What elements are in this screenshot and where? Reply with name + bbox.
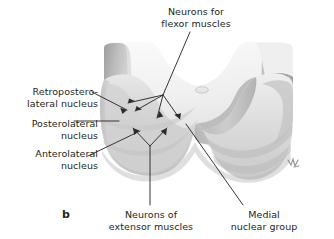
panel-letter: b bbox=[62, 208, 70, 221]
anatomical-figure: Neurons for flexor muscles Retropostero-… bbox=[0, 0, 334, 239]
central-canal-inner bbox=[199, 89, 206, 92]
spinal-cord-gray-matter-illustration bbox=[0, 0, 334, 239]
